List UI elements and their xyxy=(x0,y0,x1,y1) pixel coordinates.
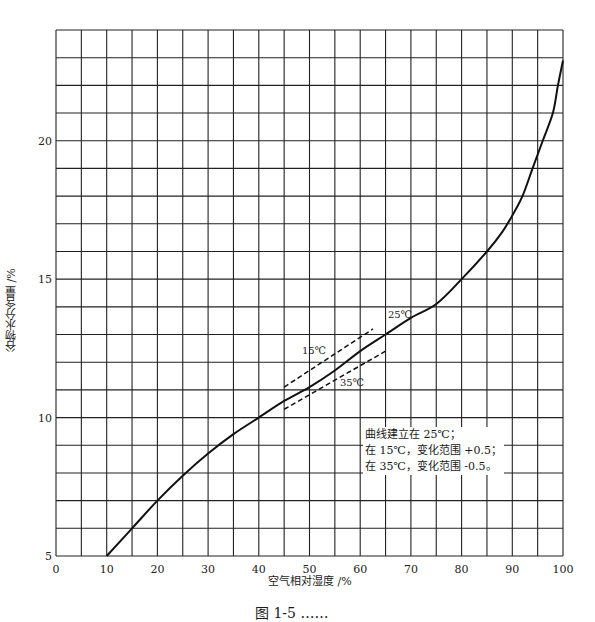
x-tick-label: 0 xyxy=(53,563,60,576)
y-tick-label: 5 xyxy=(45,550,52,563)
grid-lines xyxy=(56,30,563,556)
x-tick-label: 90 xyxy=(505,563,519,576)
y-tick-label: 10 xyxy=(38,412,52,425)
x-tick-label: 70 xyxy=(404,563,418,576)
note-line-3: 在 35℃，变化范围 -0.5。 xyxy=(365,459,502,475)
x-axis-label: 空气相对湿度 /% xyxy=(268,572,352,588)
y-tick-label: 15 xyxy=(38,273,52,286)
x-tick-label: 10 xyxy=(100,563,114,576)
x-tick-label: 80 xyxy=(455,563,469,576)
label-25c: 25℃ xyxy=(388,309,412,320)
x-tick-label: 20 xyxy=(150,563,164,576)
figure-caption: 图 1-5 …… xyxy=(255,602,328,622)
note-line-2: 在 15℃，变化范围 +0.5； xyxy=(365,443,502,459)
x-tick-label: 30 xyxy=(201,563,215,576)
x-tick-label: 40 xyxy=(252,563,266,576)
x-tick-label: 100 xyxy=(553,563,574,576)
note-line-1: 曲线建立在 25℃； xyxy=(365,427,502,443)
y-axis-label: 谷物水分含量 /% xyxy=(2,250,22,370)
curve-note: 曲线建立在 25℃； 在 15℃，变化范围 +0.5； 在 35℃，变化范围 -… xyxy=(363,427,504,475)
x-tick-label: 60 xyxy=(353,563,367,576)
y-tick-label: 20 xyxy=(38,135,52,148)
label-15c: 15℃ xyxy=(302,345,326,356)
label-35c: 35℃ xyxy=(340,377,364,388)
